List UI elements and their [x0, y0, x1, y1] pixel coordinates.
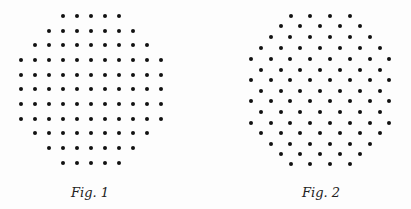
dot: [348, 14, 352, 18]
dot: [368, 142, 372, 146]
dot: [338, 46, 342, 50]
dot: [259, 46, 263, 50]
dot: [131, 58, 135, 62]
dot: [33, 87, 37, 91]
dot: [387, 78, 391, 82]
dot: [89, 58, 93, 62]
dot: [117, 102, 121, 106]
dot: [47, 117, 51, 121]
dot: [131, 117, 135, 121]
dot: [159, 73, 163, 77]
dot: [338, 68, 342, 72]
dot: [338, 110, 342, 114]
dot: [348, 35, 352, 39]
dot: [358, 46, 362, 50]
dot: [358, 89, 362, 93]
dot: [75, 58, 79, 62]
dot: [358, 24, 362, 28]
dot: [145, 73, 149, 77]
dot: [289, 162, 293, 166]
dot: [249, 78, 253, 82]
dot: [368, 35, 372, 39]
dot: [103, 73, 107, 77]
dot: [259, 131, 263, 135]
dot: [279, 89, 283, 93]
dot: [279, 46, 283, 50]
dot: [368, 57, 372, 61]
dot: [33, 73, 37, 77]
dot: [338, 131, 342, 135]
dot: [33, 43, 37, 47]
dot: [61, 73, 65, 77]
dot: [378, 89, 382, 93]
dot: [259, 89, 263, 93]
dot: [103, 87, 107, 91]
dot: [308, 99, 312, 103]
dot: [288, 78, 292, 82]
dot: [117, 73, 121, 77]
dot: [387, 99, 391, 103]
dot: [117, 161, 121, 165]
dot: [318, 24, 322, 28]
dot: [279, 131, 283, 135]
dot: [348, 142, 352, 146]
dot: [47, 43, 51, 47]
dot: [103, 102, 107, 106]
dot: [348, 78, 352, 82]
dot: [75, 131, 79, 135]
dot: [298, 152, 302, 156]
dot: [131, 146, 135, 150]
dot: [269, 57, 273, 61]
dot: [279, 68, 283, 72]
dot: [318, 131, 322, 135]
dot: [298, 24, 302, 28]
dot: [348, 162, 352, 166]
dot: [308, 121, 312, 125]
dot: [89, 87, 93, 91]
dot: [89, 146, 93, 150]
dot: [19, 87, 23, 91]
dot: [33, 117, 37, 121]
dot: [318, 110, 322, 114]
dot: [117, 43, 121, 47]
dot: [89, 102, 93, 106]
dot: [259, 110, 263, 114]
dot: [328, 35, 332, 39]
dot: [75, 87, 79, 91]
dot: [89, 131, 93, 135]
dot: [145, 131, 149, 135]
dot: [249, 57, 253, 61]
dot: [89, 29, 93, 33]
dot: [103, 58, 107, 62]
dot: [308, 14, 312, 18]
dot: [288, 57, 292, 61]
dot: [358, 110, 362, 114]
dot: [61, 161, 65, 165]
dot: [75, 146, 79, 150]
dot: [387, 57, 391, 61]
dot: [33, 102, 37, 106]
dot: [61, 29, 65, 33]
dot: [145, 43, 149, 47]
dot: [47, 58, 51, 62]
dot: [89, 73, 93, 77]
dot: [103, 29, 107, 33]
dot: [61, 146, 65, 150]
dot: [269, 35, 273, 39]
dot: [298, 110, 302, 114]
dot: [145, 117, 149, 121]
dot: [328, 99, 332, 103]
dot: [288, 142, 292, 146]
dot: [368, 99, 372, 103]
dot: [131, 43, 135, 47]
dot: [338, 89, 342, 93]
dot: [61, 131, 65, 135]
fig1-caption: Fig. 1: [71, 185, 109, 201]
dot: [61, 102, 65, 106]
dot: [47, 73, 51, 77]
dot: [318, 152, 322, 156]
dot: [117, 131, 121, 135]
dot: [288, 99, 292, 103]
dot: [288, 35, 292, 39]
dot: [19, 117, 23, 121]
